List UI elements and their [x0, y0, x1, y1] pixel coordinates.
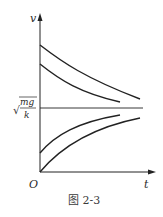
x-axis-label: t: [144, 178, 149, 191]
y-axis-label: v: [30, 12, 37, 25]
curve-lower-offset: [40, 115, 120, 153]
origin-label: O: [29, 178, 38, 191]
velocity-time-diagram: v t O √ mg k 图 2-3: [0, 0, 163, 217]
curve-upper-low: [40, 64, 120, 102]
asymptote-denominator: k: [24, 110, 29, 120]
asymptote-label: √ mg k: [13, 97, 37, 120]
x-axis-arrow-icon: [148, 170, 156, 175]
figure-caption: 图 2-3: [68, 194, 100, 207]
asymptote-numerator: mg: [20, 97, 35, 107]
curve-lower-origin: [40, 118, 140, 172]
curve-upper-high: [40, 45, 140, 99]
y-axis-arrow-icon: [38, 13, 43, 21]
